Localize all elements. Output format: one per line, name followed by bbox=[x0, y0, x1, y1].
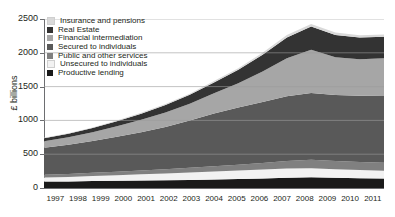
y-tick-mark bbox=[40, 53, 44, 54]
legend-label: Productive lending bbox=[58, 69, 124, 77]
x-axis-labels: 1997199819992000200120022003200420052006… bbox=[44, 193, 384, 207]
x-tick-label: 2010 bbox=[339, 193, 362, 207]
x-tick-label: 1998 bbox=[67, 193, 90, 207]
legend-swatch-icon bbox=[47, 27, 53, 33]
cropped-title bbox=[0, 0, 395, 4]
x-tick-label: 2008 bbox=[293, 193, 316, 207]
legend-item[interactable]: Productive lending bbox=[47, 69, 147, 78]
legend-swatch-icon bbox=[47, 17, 55, 25]
stacked-area-chart: 05001000150020002500 £ billions 19971998… bbox=[0, 0, 395, 217]
y-tick-label: 500 bbox=[2, 149, 38, 158]
legend-label: Secured to individuals bbox=[58, 43, 136, 51]
y-tick-mark bbox=[40, 87, 44, 88]
legend-swatch-icon bbox=[47, 53, 53, 59]
x-axis-line bbox=[44, 188, 384, 189]
y-tick-mark bbox=[40, 120, 44, 121]
x-tick-label: 2000 bbox=[112, 193, 135, 207]
y-tick-label: 2000 bbox=[2, 48, 38, 57]
y-tick-mark bbox=[40, 188, 44, 189]
x-tick-label: 2003 bbox=[180, 193, 203, 207]
legend-swatch-icon bbox=[47, 60, 55, 68]
x-tick-label: 2009 bbox=[316, 193, 339, 207]
x-tick-label: 1997 bbox=[44, 193, 67, 207]
y-tick-mark bbox=[40, 19, 44, 20]
x-tick-label: 1999 bbox=[89, 193, 112, 207]
x-tick-label: 2007 bbox=[271, 193, 294, 207]
x-tick-label: 2001 bbox=[135, 193, 158, 207]
legend-swatch-icon bbox=[47, 44, 53, 50]
y-tick-mark bbox=[40, 154, 44, 155]
x-tick-label: 2004 bbox=[203, 193, 226, 207]
x-tick-label: 2002 bbox=[157, 193, 180, 207]
y-tick-label: 1500 bbox=[2, 82, 38, 91]
y-tick-label: 2500 bbox=[2, 14, 38, 23]
y-tick-label: 1000 bbox=[2, 115, 38, 124]
legend-swatch-icon bbox=[47, 70, 53, 76]
x-tick-label: 2006 bbox=[248, 193, 271, 207]
y-axis-labels: 05001000150020002500 bbox=[0, 0, 38, 217]
chart-legend: Insurance and pensionsReal EstateFinanci… bbox=[47, 17, 147, 77]
legend-swatch-icon bbox=[47, 35, 53, 41]
y-axis-title: £ billions bbox=[9, 58, 19, 128]
y-tick-label: 0 bbox=[2, 183, 38, 192]
x-tick-label: 2005 bbox=[225, 193, 248, 207]
x-tick-label: 2011 bbox=[361, 193, 384, 207]
